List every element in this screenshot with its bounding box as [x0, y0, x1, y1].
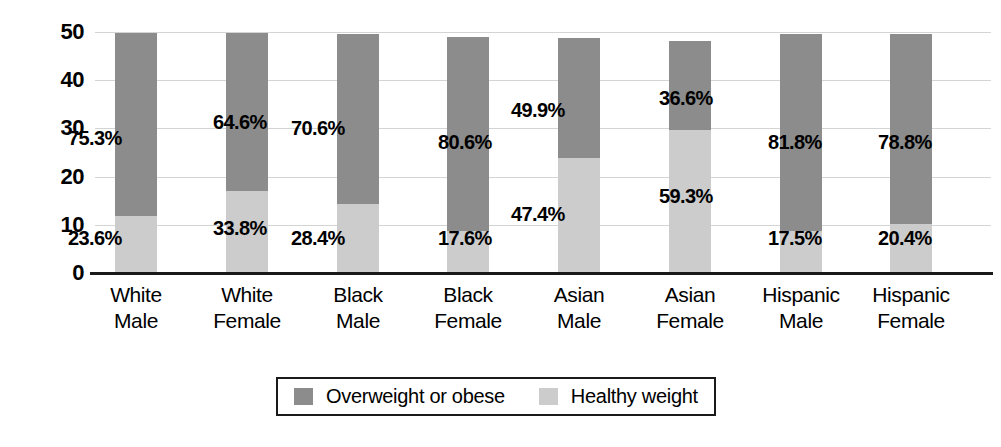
legend-label: Overweight or obese	[326, 386, 505, 406]
category-label-line: Hispanic	[741, 282, 861, 308]
category-label: WhiteMale	[76, 282, 196, 334]
category-label-line: Male	[76, 308, 196, 334]
category-label-line: White	[187, 282, 307, 308]
y-tick-label-0: 0	[40, 262, 84, 284]
bar-segment-overweight-or-obese[interactable]	[669, 41, 711, 129]
value-label-overweight-or-obese: 80.6%	[438, 132, 492, 152]
legend: Overweight or obeseHealthy weight	[276, 377, 716, 416]
value-label-healthy-weight: 23.6%	[68, 228, 122, 248]
x-axis-line	[90, 272, 993, 275]
plot-area: 75.3%23.6%64.6%33.8%70.6%28.4%80.6%17.6%…	[95, 32, 991, 273]
legend-item[interactable]: Healthy weight	[539, 386, 698, 406]
value-label-overweight-or-obese: 78.8%	[878, 132, 932, 152]
stacked-bar-chart: Percentage 01020304050 75.3%23.6%64.6%33…	[0, 0, 1001, 447]
category-label-line: Female	[630, 308, 750, 334]
category-label: AsianFemale	[630, 282, 750, 334]
value-label-overweight-or-obese: 81.8%	[768, 132, 822, 152]
category-label-line: Male	[519, 308, 639, 334]
legend-swatch-icon	[294, 388, 313, 405]
bar-segment-overweight-or-obese[interactable]	[115, 33, 157, 215]
value-label-overweight-or-obese: 70.6%	[291, 118, 345, 138]
category-label-line: Asian	[519, 282, 639, 308]
category-label-line: White	[76, 282, 196, 308]
y-tick-label-20: 20	[40, 166, 84, 188]
value-label-healthy-weight: 17.5%	[768, 228, 822, 248]
category-label-line: Female	[851, 308, 971, 334]
y-tick-label-40: 40	[40, 69, 84, 91]
bar-segment-overweight-or-obese[interactable]	[890, 34, 932, 224]
value-label-overweight-or-obese: 75.3%	[68, 128, 122, 148]
category-label: AsianMale	[519, 282, 639, 334]
value-label-healthy-weight: 33.8%	[213, 218, 267, 238]
legend-swatch-icon	[539, 388, 558, 405]
category-label: BlackFemale	[408, 282, 528, 334]
category-label-line: Female	[187, 308, 307, 334]
x-axis-category-labels: WhiteMaleWhiteFemaleBlackMaleBlackFemale…	[95, 282, 991, 352]
value-label-healthy-weight: 47.4%	[511, 204, 565, 224]
category-label-line: Female	[408, 308, 528, 334]
legend-label: Healthy weight	[571, 386, 698, 406]
category-label-line: Black	[408, 282, 528, 308]
value-label-healthy-weight: 20.4%	[878, 228, 932, 248]
category-label-line: Black	[298, 282, 418, 308]
value-label-overweight-or-obese: 64.6%	[213, 112, 267, 132]
category-label: WhiteFemale	[187, 282, 307, 334]
bar-group[interactable]	[669, 41, 711, 273]
y-tick-label-50: 50	[40, 21, 84, 43]
y-axis-tick-labels: 01020304050	[28, 0, 84, 447]
value-label-overweight-or-obese: 49.9%	[511, 100, 565, 120]
bar-group[interactable]	[558, 38, 600, 273]
value-label-healthy-weight: 17.6%	[438, 228, 492, 248]
category-label-line: Hispanic	[851, 282, 971, 308]
category-label-line: Male	[741, 308, 861, 334]
category-label: HispanicMale	[741, 282, 861, 334]
value-label-healthy-weight: 28.4%	[291, 228, 345, 248]
value-label-overweight-or-obese: 36.6%	[659, 88, 713, 108]
category-label: HispanicFemale	[851, 282, 971, 334]
legend-item[interactable]: Overweight or obese	[294, 386, 505, 406]
category-label: BlackMale	[298, 282, 418, 334]
value-label-healthy-weight: 59.3%	[659, 186, 713, 206]
category-label-line: Asian	[630, 282, 750, 308]
category-label-line: Male	[298, 308, 418, 334]
